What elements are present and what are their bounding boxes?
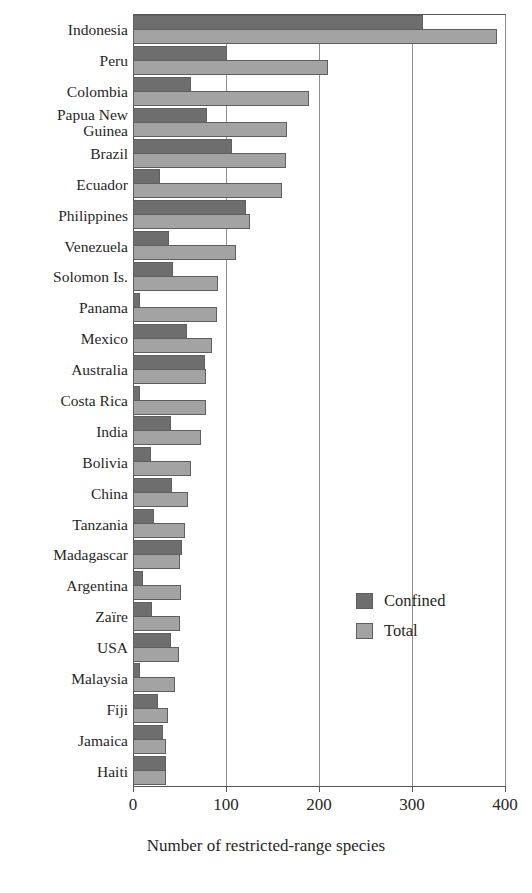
bar-row: Mexico [0,323,532,354]
bar-row: Indonesia [0,14,532,45]
category-label: Solomon Is. [4,269,128,285]
bar-confined [133,725,163,740]
category-label: China [4,486,128,502]
x-axis-title: Number of restricted-range species [0,836,532,856]
category-label: USA [4,640,128,656]
bar-total [133,400,206,415]
bar-confined [133,108,207,123]
category-label: Philippines [4,208,128,224]
tick-mark-0 [133,786,134,792]
category-label: Ecuador [4,177,128,193]
category-label: Bolivia [4,455,128,471]
bar-total [133,183,282,198]
bar-confined [133,416,171,431]
category-label: Argentina [4,578,128,594]
bar-row: Colombia [0,76,532,107]
bar-row: Madagascar [0,539,532,570]
x-tick-label-200: 200 [284,795,354,815]
bar-confined [133,139,232,154]
bar-confined [133,571,143,586]
tick-mark-200 [319,786,320,792]
category-label: Fiji [4,702,128,718]
bar-total [133,739,166,754]
bar-row: Panama [0,292,532,323]
bar-confined [133,46,227,61]
category-label: Panama [4,300,128,316]
bar-confined [133,447,151,462]
category-label: Haiti [4,764,128,780]
bar-row: Brazil [0,138,532,169]
bar-row: Philippines [0,199,532,230]
category-label: Tanzania [4,517,128,533]
legend-item-confined: Confined [356,586,496,616]
x-tick-label-300: 300 [377,795,447,815]
bar-row: Tanzania [0,508,532,539]
bar-row: Costa Rica [0,385,532,416]
legend-label-confined: Confined [384,591,445,611]
bar-row: Venezuela [0,230,532,261]
bar-confined [133,694,158,709]
bar-total [133,647,179,662]
bar-total [133,91,309,106]
bar-total [133,461,191,476]
bar-confined [133,633,171,648]
category-label: Papua New Guinea [4,107,128,139]
restricted-range-species-chart: IndonesiaPeruColombiaPapua New GuineaBra… [0,0,532,893]
bar-row: Malaysia [0,662,532,693]
bar-confined [133,169,160,184]
x-tick-label-400: 400 [470,795,532,815]
bar-total [133,60,328,75]
bar-confined [133,540,182,555]
tick-mark-400 [505,786,506,792]
bar-total [133,430,201,445]
bar-row: Ecuador [0,168,532,199]
category-label: Australia [4,362,128,378]
bar-rows: IndonesiaPeruColombiaPapua New GuineaBra… [0,14,532,786]
bar-row: Peru [0,45,532,76]
legend-label-total: Total [384,621,418,641]
bar-row: Haiti [0,755,532,786]
bar-row: Jamaica [0,724,532,755]
bar-confined [133,478,172,493]
category-label: Peru [4,53,128,69]
bar-row: India [0,415,532,446]
bar-confined [133,200,246,215]
bar-row: China [0,477,532,508]
bar-row: Bolivia [0,446,532,477]
category-label: Brazil [4,146,128,162]
bar-row: Papua New Guinea [0,107,532,138]
bar-confined [133,663,140,678]
bar-total [133,708,168,723]
bar-confined [133,756,166,771]
category-label: Colombia [4,84,128,100]
bar-confined [133,509,154,524]
category-label: India [4,424,128,440]
legend-swatch-total-icon [356,623,373,639]
legend-item-total: Total [356,616,496,646]
bar-row: Australia [0,354,532,385]
category-label: Costa Rica [4,393,128,409]
x-tick-label-100: 100 [191,795,261,815]
bar-total [133,214,250,229]
bar-confined [133,602,152,617]
bar-total [133,29,497,44]
bar-total [133,122,287,137]
bar-confined [133,77,191,92]
x-tick-label-0: 0 [98,795,168,815]
bar-confined [133,15,423,30]
category-label: Venezuela [4,239,128,255]
legend: Confined Total [356,586,496,646]
bar-confined [133,386,140,401]
category-label: Indonesia [4,22,128,38]
bar-total [133,245,236,260]
bar-total [133,523,185,538]
tick-mark-100 [226,786,227,792]
bar-total [133,307,217,322]
bar-confined [133,324,187,339]
bar-total [133,338,212,353]
tick-mark-300 [412,786,413,792]
category-label: Madagascar [4,547,128,563]
bar-total [133,770,166,785]
bar-total [133,276,218,291]
bar-row: Solomon Is. [0,261,532,292]
